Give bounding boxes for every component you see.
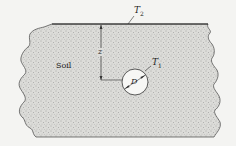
surface-temperature-label: T2	[134, 6, 144, 17]
diagram-graphic	[0, 0, 236, 146]
diameter-label: D	[131, 78, 137, 86]
depth-label: z	[97, 48, 103, 56]
soil-label: Soil	[56, 62, 71, 70]
pipe-temperature-label: T1	[152, 58, 162, 69]
t2-leader-line	[128, 16, 134, 24]
soil-cylinder-diagram: T2 T1 z D Soil	[0, 0, 236, 146]
